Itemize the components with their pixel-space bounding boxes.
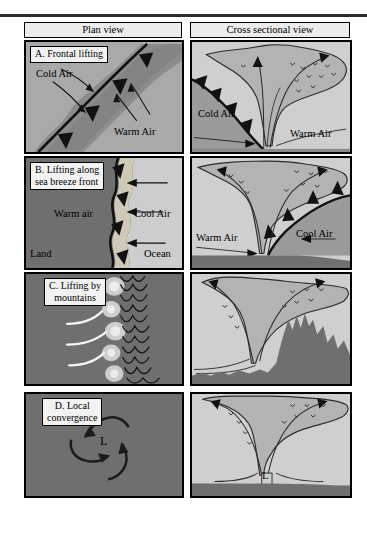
panel-a-plan-view: A. Frontal lifting Cold Air Warm Air [24,40,184,154]
panel-d-cross-section: L [190,392,352,498]
panel-b-title: B. Lifting along sea breeze front [30,162,104,190]
panel-a-cross-section: Cold Air Warm Air [190,40,352,154]
panel-c-plan-view: C. Lifting by mountains [24,272,184,386]
column-header-cross-sectional-view: Cross sectional view [190,22,350,38]
panel-b-cross-graphic [192,158,350,268]
panel-a-cross-label-warm-air: Warm Air [290,128,331,139]
column-header-plan-view: Plan view [24,22,182,38]
panel-b-plan-view: B. Lifting along sea breeze front Warm a… [24,156,184,270]
panel-b-cross-label-warm-air: Warm Air [196,232,237,243]
panel-b-cross-label-cool-air: Cool Air [296,228,332,239]
panel-d-title: D. Local convergence [42,398,102,426]
panel-d-cross-label-low: L [262,470,269,481]
panel-a-plan-label-warm-air: Warm Air [114,126,155,137]
panel-a-cross-label-cold-air: Cold Air [198,108,234,119]
figure-thunderstorm-lifting-mechanisms: Plan view Cross sectional view [0,0,367,534]
panel-d-cross-graphic [192,394,350,496]
column-header-cross-sectional-view-label: Cross sectional view [227,25,314,36]
panel-b-cross-section: Warm Air Cool Air [190,156,352,270]
panel-b-plan-label-ocean: Ocean [144,248,171,259]
panel-b-plan-label-warm-air: Warm air [54,208,93,219]
panel-d-plan-view: D. Local convergence L [24,392,184,498]
panel-c-cross-section [190,272,352,386]
panel-c-title: C. Lifting by mountains [44,278,106,306]
panel-b-plan-label-cool-air: Cool Air [134,208,170,219]
panel-a-plan-label-cold-air: Cold Air [36,68,72,79]
column-header-plan-view-label: Plan view [82,25,124,36]
panel-b-plan-label-land: Land [30,248,52,259]
panel-c-cross-graphic [192,274,350,384]
panel-a-title: A. Frontal lifting [30,46,108,63]
panel-d-plan-label-low: L [100,436,107,447]
